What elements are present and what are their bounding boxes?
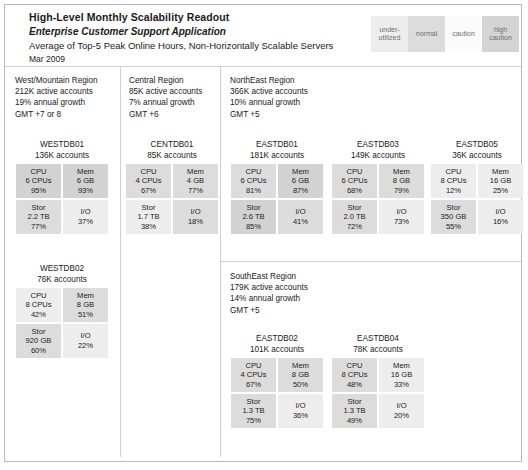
server-accounts: 149K accounts (330, 150, 426, 161)
metric-io[interactable]: I/O 36% (278, 394, 323, 428)
metric-storage[interactable]: Stor 2.2 TB 77% (16, 200, 61, 234)
metric-value: 6 CPUs (25, 176, 51, 186)
legend-item-caution: caution (445, 16, 482, 52)
metric-storage[interactable]: Stor 350 GB 55% (431, 200, 476, 234)
metric-storage[interactable]: Stor 1.3 TB 75% (231, 394, 276, 428)
metric-pct: 85% (246, 222, 261, 232)
metric-cpu[interactable]: CPU 4 CPUs 67% (231, 358, 276, 392)
metric-storage[interactable]: Stor 920 GB 60% (16, 324, 61, 358)
page-date: Mar 2009 (29, 53, 333, 65)
metric-pct: 87% (293, 186, 308, 196)
metric-label: CPU (445, 167, 461, 177)
server-card-westdb02[interactable]: WESTDB02 76K accounts CPU 8 CPUs 42% Mem… (14, 263, 110, 358)
metric-cpu[interactable]: CPU 8 CPUs 42% (16, 288, 61, 322)
region-header-west-mountain: West/Mountain Region 212K active account… (15, 75, 115, 120)
metric-pct: 41% (293, 217, 308, 227)
metric-cpu[interactable]: CPU 6 CPUs 81% (231, 164, 276, 198)
server-card-eastdb02[interactable]: EASTDB02 101K accounts CPU 4 CPUs 67% Me… (229, 333, 325, 428)
metric-pct: 67% (246, 380, 261, 390)
server-metrics: CPU 4 CPUs 67% Mem 8 GB 50% Stor 1.3 TB … (229, 358, 325, 428)
server-card-centdb01[interactable]: CENTDB01 85K accounts CPU 4 CPUs 67% Mem… (124, 139, 220, 234)
metric-label: Mem (492, 167, 509, 177)
metric-label: Stor (32, 203, 46, 213)
metric-io[interactable]: I/O 16% (478, 200, 523, 234)
metric-mem[interactable]: Mem 6 GB 87% (278, 164, 323, 198)
metric-io[interactable]: I/O 22% (63, 324, 108, 358)
region-name: Central Region (129, 75, 224, 86)
server-card-eastdb05[interactable]: EASTDB05 36K accounts CPU 8 CPUs 12% Mem… (429, 139, 525, 234)
server-card-eastdb01[interactable]: EASTDB01 181K accounts CPU 6 CPUs 81% Me… (229, 139, 325, 234)
region-southeast: SouthEast Region 179K active accounts 14… (230, 271, 410, 316)
regions-board: West/Mountain Region 212K active account… (5, 67, 521, 461)
server-name: WESTDB02 (14, 263, 110, 274)
metric-pct: 51% (78, 310, 93, 320)
page-title: High-Level Monthly Scalability Readout (29, 11, 333, 24)
metric-value: 6 CPUs (341, 176, 367, 186)
server-card-eastdb04[interactable]: EASTDB04 78K accounts CPU 8 CPUs 48% Mem… (330, 333, 426, 428)
metric-mem[interactable]: Mem 8 GB 50% (278, 358, 323, 392)
region-accounts: 212K active accounts (15, 86, 115, 97)
metric-cpu[interactable]: CPU 6 CPUs 95% (16, 164, 61, 198)
metric-mem[interactable]: Mem 4 GB 77% (173, 164, 218, 198)
metric-value: 8 GB (393, 176, 410, 186)
metric-mem[interactable]: Mem 6 GB 93% (63, 164, 108, 198)
server-card-eastdb03[interactable]: EASTDB03 149K accounts CPU 6 CPUs 68% Me… (330, 139, 426, 234)
metric-value: 6 GB (77, 176, 94, 186)
server-card-westdb01[interactable]: WESTDB01 136K accounts CPU 6 CPUs 95% Me… (14, 139, 110, 234)
metric-cpu[interactable]: CPU 8 CPUs 48% (332, 358, 377, 392)
server-accounts: 36K accounts (429, 150, 525, 161)
metric-storage[interactable]: Stor 2.0 TB 72% (332, 200, 377, 234)
metric-label: I/O (295, 207, 305, 217)
metric-label: Mem (393, 167, 410, 177)
metric-pct: 77% (188, 186, 203, 196)
metric-mem[interactable]: Mem 8 GB 51% (63, 288, 108, 322)
metric-storage[interactable]: Stor 1.7 TB 38% (126, 200, 171, 234)
metric-value: 2.2 TB (27, 212, 49, 222)
metric-mem[interactable]: Mem 8 GB 79% (379, 164, 424, 198)
region-west-mountain: West/Mountain Region 212K active account… (15, 75, 115, 120)
metric-label: CPU (346, 361, 362, 371)
server-accounts: 78K accounts (330, 344, 426, 355)
metric-pct: 50% (293, 380, 308, 390)
metric-io[interactable]: I/O 73% (379, 200, 424, 234)
metric-io[interactable]: I/O 18% (173, 200, 218, 234)
server-accounts: 136K accounts (14, 150, 110, 161)
metric-value: 1.3 TB (343, 406, 365, 416)
metric-mem[interactable]: Mem 16 GB 33% (379, 358, 424, 392)
metric-storage[interactable]: Stor 2.6 TB 85% (231, 200, 276, 234)
metric-value: 8 CPUs (440, 176, 466, 186)
metric-label: Mem (77, 167, 94, 177)
metric-label: Mem (77, 291, 94, 301)
column-divider-2 (220, 67, 221, 457)
metric-label: I/O (495, 207, 505, 217)
metric-pct: 60% (31, 346, 46, 356)
metric-pct: 48% (347, 380, 362, 390)
metric-io[interactable]: I/O 37% (63, 200, 108, 234)
server-metrics: CPU 8 CPUs 42% Mem 8 GB 51% Stor 920 GB … (14, 288, 110, 358)
region-growth: 7% annual growth (129, 97, 224, 108)
server-name: EASTDB04 (330, 333, 426, 344)
metric-label: CPU (346, 167, 362, 177)
metric-cpu[interactable]: CPU 4 CPUs 67% (126, 164, 171, 198)
legend-label-normal: normal (416, 30, 437, 39)
metric-label: CPU (30, 291, 46, 301)
metric-label: CPU (245, 167, 261, 177)
metric-pct: 18% (188, 217, 203, 227)
region-accounts: 366K active accounts (230, 86, 410, 97)
server-accounts: 181K accounts (229, 150, 325, 161)
metric-pct: 37% (78, 217, 93, 227)
metric-value: 16 GB (391, 370, 413, 380)
metric-cpu[interactable]: CPU 8 CPUs 12% (431, 164, 476, 198)
server-name: WESTDB01 (14, 139, 110, 150)
metric-label: I/O (295, 401, 305, 411)
metric-label: I/O (190, 207, 200, 217)
metric-pct: 68% (347, 186, 362, 196)
metric-label: Stor (32, 327, 46, 337)
metric-mem[interactable]: Mem 16 GB 25% (478, 164, 523, 198)
metric-io[interactable]: I/O 41% (278, 200, 323, 234)
metric-cpu[interactable]: CPU 6 CPUs 68% (332, 164, 377, 198)
metric-io[interactable]: I/O 20% (379, 394, 424, 428)
metric-pct: 81% (246, 186, 261, 196)
metric-storage[interactable]: Stor 1.3 TB 49% (332, 394, 377, 428)
region-growth: 19% annual growth (15, 97, 115, 108)
